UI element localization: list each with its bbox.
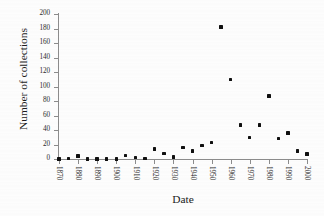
x-tick-mark — [135, 160, 136, 164]
y-tick-label: 180 — [28, 25, 50, 32]
data-point — [239, 123, 242, 126]
x-tick-label: 1960 — [227, 166, 234, 180]
data-point — [134, 156, 137, 159]
y-tick-mark — [54, 101, 58, 102]
data-point — [143, 157, 146, 160]
data-point — [105, 157, 108, 160]
y-tick-label: 60 — [28, 112, 50, 119]
y-tick-mark — [54, 116, 58, 117]
x-tick-mark — [231, 160, 232, 164]
data-point — [219, 25, 222, 28]
y-tick-mark — [54, 130, 58, 131]
y-tick-label: 40 — [28, 126, 50, 133]
x-tick-label: 1980 — [265, 166, 272, 180]
data-point — [200, 144, 203, 147]
x-tick-mark — [288, 160, 289, 164]
data-point — [172, 155, 175, 158]
y-tick-mark — [54, 14, 58, 15]
data-point — [296, 149, 299, 152]
x-tick-label: 1950 — [208, 166, 215, 180]
data-point — [191, 149, 194, 152]
x-tick-mark — [193, 160, 194, 164]
x-tick-label: 1940 — [189, 166, 196, 180]
data-point — [115, 157, 118, 160]
plot-area — [59, 14, 307, 159]
y-tick-mark — [54, 58, 58, 59]
data-point — [277, 137, 280, 140]
x-tick-label: 1970 — [246, 166, 253, 180]
y-tick-label: 80 — [28, 97, 50, 104]
x-tick-label: 1910 — [131, 166, 138, 180]
data-point — [153, 147, 156, 150]
y-tick-label: 160 — [28, 39, 50, 46]
x-tick-label: 1880 — [74, 166, 81, 180]
x-tick-label: 1930 — [169, 166, 176, 180]
x-tick-label: 2000 — [303, 166, 310, 180]
y-tick-mark — [54, 72, 58, 73]
data-point — [305, 152, 308, 155]
x-tick-mark — [212, 160, 213, 164]
x-axis-title: Date — [59, 193, 307, 205]
x-tick-label: 1990 — [284, 166, 291, 180]
y-tick-label: 0 — [28, 155, 50, 162]
data-point — [76, 154, 79, 157]
x-tick-mark — [78, 160, 79, 164]
data-point — [181, 146, 184, 149]
data-point — [86, 157, 89, 160]
x-tick-label: 1920 — [150, 166, 157, 180]
x-tick-label: 1870 — [55, 166, 62, 180]
data-point — [258, 123, 261, 126]
y-tick-mark — [54, 43, 58, 44]
x-tick-label: 1900 — [112, 166, 119, 180]
data-point — [124, 154, 127, 157]
y-tick-label: 140 — [28, 54, 50, 61]
data-point — [229, 78, 232, 81]
x-tick-mark — [173, 160, 174, 164]
data-point — [210, 141, 213, 144]
data-point — [286, 131, 289, 134]
data-point — [248, 136, 251, 139]
y-tick-label: 200 — [28, 10, 50, 17]
y-tick-label: 20 — [28, 141, 50, 148]
x-tick-label: 1890 — [93, 166, 100, 180]
data-point — [95, 157, 98, 160]
y-tick-label: 100 — [28, 83, 50, 90]
data-point — [57, 157, 60, 160]
data-point — [267, 94, 270, 97]
x-tick-mark — [307, 160, 308, 164]
data-point — [67, 157, 70, 160]
y-tick-label: 120 — [28, 68, 50, 75]
y-tick-mark — [54, 87, 58, 88]
y-tick-mark — [54, 29, 58, 30]
x-tick-mark — [269, 160, 270, 164]
data-point — [162, 152, 165, 155]
x-tick-mark — [154, 160, 155, 164]
scatter-chart-figure: Number of collections 020406080100120140… — [0, 0, 324, 216]
x-tick-mark — [250, 160, 251, 164]
y-tick-mark — [54, 145, 58, 146]
